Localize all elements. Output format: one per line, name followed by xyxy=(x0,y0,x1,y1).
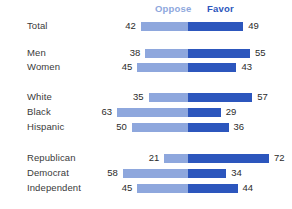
bar-segment-favor xyxy=(188,108,221,117)
legend-item-oppose: Oppose xyxy=(155,3,192,14)
bar-segment-favor xyxy=(188,49,250,58)
bar-segment-favor xyxy=(188,184,238,193)
value-oppose: 63 xyxy=(102,106,113,117)
bar-segment-favor xyxy=(188,22,243,31)
legend-item-favor: Favor xyxy=(207,3,234,14)
bar-segment-oppose xyxy=(164,154,188,163)
row-label-democrat: Democrat xyxy=(27,167,69,178)
bar-segment-favor xyxy=(188,123,229,132)
value-favor: 34 xyxy=(231,167,242,178)
value-oppose: 45 xyxy=(122,182,133,193)
row-label-men: Men xyxy=(27,47,46,58)
value-oppose: 21 xyxy=(149,152,160,163)
row-label-republican: Republican xyxy=(27,152,76,163)
value-oppose: 35 xyxy=(133,91,144,102)
chart-row: Women4543 xyxy=(0,60,292,74)
value-oppose: 50 xyxy=(116,121,127,132)
row-label-total: Total xyxy=(27,20,48,31)
value-favor: 57 xyxy=(257,91,268,102)
chart-row: Democrat5834 xyxy=(0,166,292,180)
bar-segment-oppose xyxy=(141,22,188,31)
bar-segment-oppose xyxy=(123,169,188,178)
chart-row: Independent4544 xyxy=(0,181,292,195)
value-favor: 55 xyxy=(255,47,266,58)
value-oppose: 45 xyxy=(122,61,133,72)
bar-segment-oppose xyxy=(117,108,188,117)
chart-row: Black6329 xyxy=(0,105,292,119)
bar-segment-favor xyxy=(188,169,226,178)
row-label-black: Black xyxy=(27,106,51,117)
bar-segment-favor xyxy=(188,154,269,163)
value-favor: 49 xyxy=(248,20,259,31)
bar-segment-favor xyxy=(188,63,236,72)
chart-row: White3557 xyxy=(0,90,292,104)
chart-row: Men3855 xyxy=(0,46,292,60)
value-favor: 72 xyxy=(274,152,285,163)
value-favor: 29 xyxy=(226,106,237,117)
row-label-independent: Independent xyxy=(27,182,81,193)
value-oppose: 58 xyxy=(107,167,118,178)
chart-row: Hispanic5036 xyxy=(0,120,292,134)
row-label-women: Women xyxy=(27,61,60,72)
bar-segment-oppose xyxy=(137,184,188,193)
value-favor: 44 xyxy=(243,182,254,193)
value-favor: 43 xyxy=(241,61,252,72)
bar-segment-favor xyxy=(188,93,252,102)
row-label-white: White xyxy=(27,91,52,102)
value-oppose: 38 xyxy=(130,47,141,58)
chart-row: Republican2172 xyxy=(0,151,292,165)
value-favor: 36 xyxy=(234,121,245,132)
value-oppose: 42 xyxy=(125,20,136,31)
chart-row: Total4249 xyxy=(0,19,292,33)
row-label-hispanic: Hispanic xyxy=(27,121,64,132)
bar-segment-oppose xyxy=(145,49,188,58)
bar-segment-oppose xyxy=(132,123,188,132)
diverging-bar-chart: Oppose Favor Total4249Men3855Women4543Wh… xyxy=(0,0,292,209)
bar-segment-oppose xyxy=(137,63,188,72)
bar-segment-oppose xyxy=(149,93,188,102)
chart-legend: Oppose Favor xyxy=(0,3,292,18)
